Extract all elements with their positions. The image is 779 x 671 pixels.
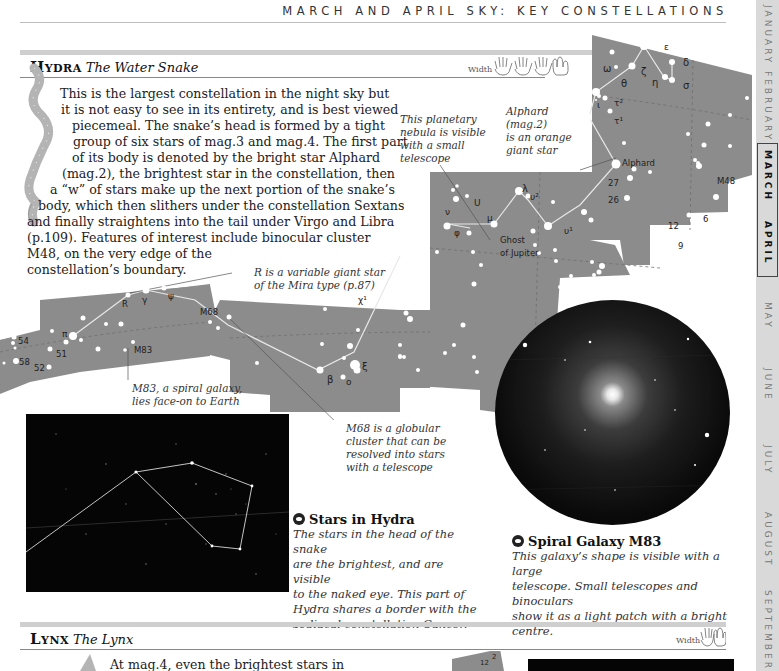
note-planetary-nebula: This planetary nebula is visible with a … (400, 113, 486, 165)
tab-may[interactable]: MAY (756, 285, 779, 347)
tab-august[interactable]: AUGUST (756, 500, 779, 580)
svg-text:ι: ι (597, 100, 600, 110)
tab-june[interactable]: JUNE (756, 350, 779, 420)
lynx-width-hands-icon (700, 626, 726, 652)
lynx-section-bar (20, 622, 726, 627)
svg-text:12: 12 (668, 221, 679, 231)
svg-text:2: 2 (492, 653, 496, 661)
svg-text:β: β (327, 374, 333, 385)
svg-text:η: η (652, 77, 658, 88)
note-m83: M83, a spiral galaxy, lies face-on to Ea… (132, 382, 242, 408)
svg-text:λ: λ (522, 183, 528, 194)
svg-text:12: 12 (480, 659, 489, 667)
svg-text:υ²: υ² (530, 192, 539, 202)
svg-text:54: 54 (18, 336, 29, 346)
svg-text:Alphard: Alphard (622, 158, 655, 168)
svg-text:M48: M48 (717, 176, 735, 186)
svg-text:τ¹: τ¹ (614, 116, 623, 126)
svg-text:ψ: ψ (168, 291, 174, 301)
svg-text:M68: M68 (200, 307, 218, 317)
svg-text:γ: γ (142, 295, 148, 305)
svg-text:θ: θ (621, 78, 627, 89)
svg-text:R: R (122, 299, 128, 309)
note-alphard: Alphard (mag.2) is an orange giant star (506, 105, 572, 157)
svg-text:σ: σ (683, 80, 690, 91)
tab-january[interactable]: JANUARY (756, 0, 779, 70)
lynx-photo (528, 659, 734, 671)
svg-text:26: 26 (608, 195, 619, 205)
eye-icon (293, 513, 305, 525)
svg-text:ξ: ξ (362, 361, 368, 372)
note-m68: M68 is a globular cluster that can be re… (346, 422, 446, 474)
svg-text:52: 52 (34, 363, 45, 373)
lynx-width-label: Width (676, 636, 700, 645)
telescope-icon (512, 535, 524, 547)
tab-july[interactable]: JULY (756, 425, 779, 495)
svg-text:M83: M83 (134, 345, 152, 355)
spiral-galaxy-m83-photo (495, 300, 730, 525)
svg-text:ζ: ζ (641, 66, 646, 77)
svg-text:υ¹: υ¹ (564, 226, 573, 236)
svg-text:Ghost: Ghost (500, 235, 526, 245)
lynx-illustration (76, 654, 96, 671)
svg-text:51: 51 (56, 349, 67, 359)
svg-text:ε: ε (664, 42, 669, 52)
svg-text:χ¹: χ¹ (358, 295, 367, 305)
svg-text:ω: ω (603, 63, 611, 74)
svg-text:6: 6 (703, 214, 708, 224)
svg-text:27: 27 (608, 178, 619, 188)
lynx-name: Lynx (30, 630, 69, 648)
hydra-star-photo (26, 414, 289, 592)
svg-text:U: U (474, 198, 481, 208)
hydra-photo-caption: Stars in Hydra The stars in the head of … (293, 512, 483, 632)
svg-text:φ: φ (454, 228, 460, 238)
svg-text:58: 58 (19, 357, 30, 367)
tab-february[interactable]: FEBRUARY (756, 72, 779, 142)
lynx-title: LynxThe Lynx (30, 630, 133, 648)
svg-text:μ: μ (487, 213, 493, 223)
lynx-subtitle: The Lynx (73, 632, 133, 647)
svg-text:τ²: τ² (614, 98, 623, 108)
lynx-star-map: 2 12 (452, 651, 512, 671)
lynx-title-rule (20, 649, 726, 650)
svg-text:o: o (346, 377, 352, 387)
month-tab-strip: JANUARY FEBRUARY MARCH APRIL MAY JUNE JU… (756, 0, 779, 671)
svg-text:π: π (62, 329, 68, 339)
svg-text:ν: ν (445, 207, 450, 217)
svg-text:δ: δ (683, 57, 689, 68)
svg-text:of Jupiter: of Jupiter (500, 248, 539, 258)
active-month-indicator (757, 143, 778, 277)
svg-text:9: 9 (678, 241, 683, 251)
lynx-description: At mag.4, even the brightest stars in (110, 657, 344, 671)
note-r-variable: R is a variable giant star of the Mira t… (254, 266, 385, 292)
tab-september[interactable]: SEPTEMBER (756, 580, 779, 671)
